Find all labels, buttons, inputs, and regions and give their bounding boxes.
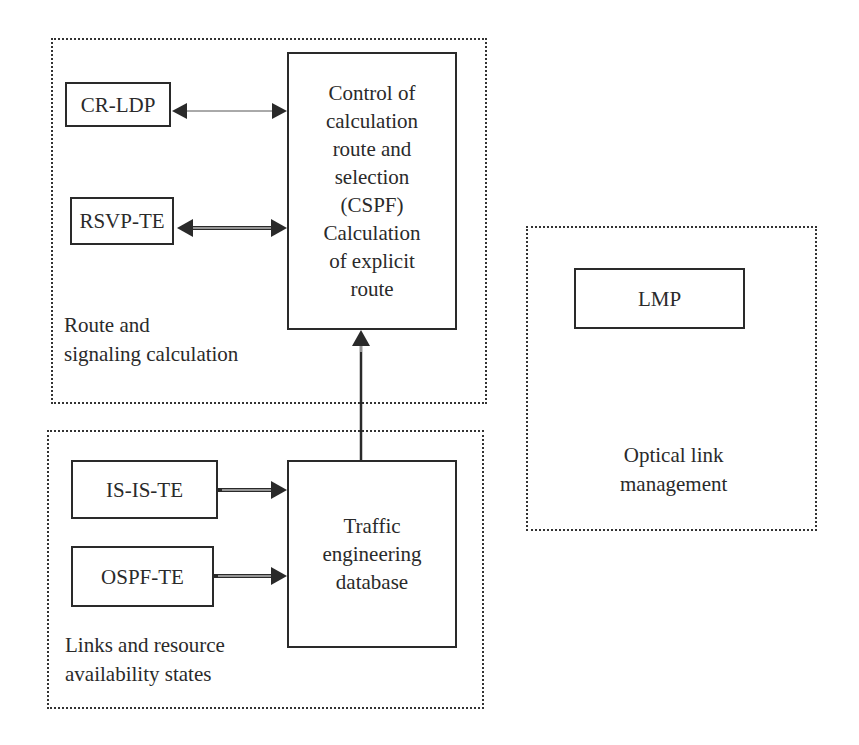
rsvp-te-cspf-arrow bbox=[177, 219, 287, 237]
connector-layer bbox=[0, 0, 859, 745]
cr-ldp-cspf-arrow bbox=[172, 103, 287, 119]
is-is-te-ted-arrow bbox=[218, 481, 287, 499]
ospf-te-ted-arrow bbox=[214, 567, 287, 585]
ted-cspf-arrow bbox=[352, 330, 370, 460]
